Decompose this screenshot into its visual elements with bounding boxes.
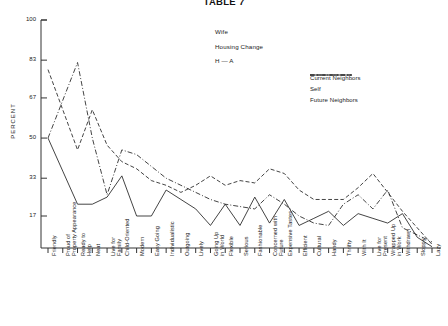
series-line-current-neighbors (48, 63, 432, 242)
y-axis-ticks (41, 20, 47, 216)
axis-lines (41, 20, 441, 248)
series-line-self (48, 70, 432, 245)
data-series (48, 63, 432, 247)
chart-figure: TABLE 7 Wife Housing Change H — A Curren… (0, 0, 448, 326)
x-axis-ticks (48, 248, 432, 253)
plot-area (0, 0, 448, 326)
series-line-future-neighbors (48, 138, 432, 247)
